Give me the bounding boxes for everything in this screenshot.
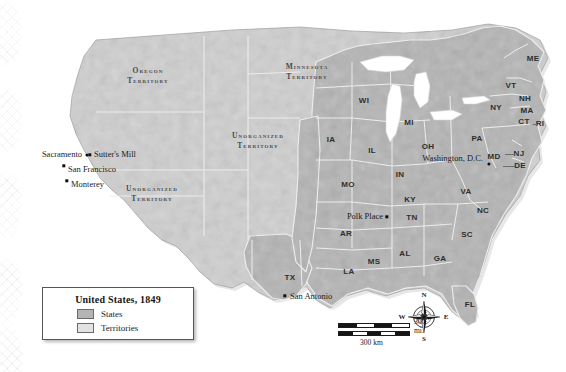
leader-line-nj [505,154,515,155]
scalebar-miles-label: 300 mi. [414,317,430,335]
city-marker-icon [88,153,91,156]
scalebar-km-label: 300 km [360,338,383,347]
city-marker-icon [385,215,388,218]
legend-swatch-territories [77,323,94,333]
legend-label-territories: Territories [101,323,138,333]
legend-entry-territories: Territories [77,323,193,333]
map-scalebar: 300 mi. 300 km [338,322,430,346]
scalebar-miles-track [338,323,410,328]
leader-line-de [503,166,515,167]
city-marker-icon [283,294,286,297]
leader-line-ri [533,124,538,125]
compass-west-label: W [399,313,406,321]
map-legend: United States, 1849 States Territories [42,287,194,340]
legend-swatch-states [77,309,94,319]
compass-east-label: E [444,313,449,321]
city-marker-icon [62,164,65,167]
compass-north-label: N [421,291,426,299]
state-region-east [296,26,546,320]
map-page: Oregon Territory Minnesota Territory Uno… [0,0,566,372]
scalebar-km-track [338,331,410,336]
legend-label-states: States [101,309,123,319]
city-marker-icon [65,179,68,182]
legend-entry-states: States [77,309,193,319]
legend-title: United States, 1849 [43,294,193,305]
